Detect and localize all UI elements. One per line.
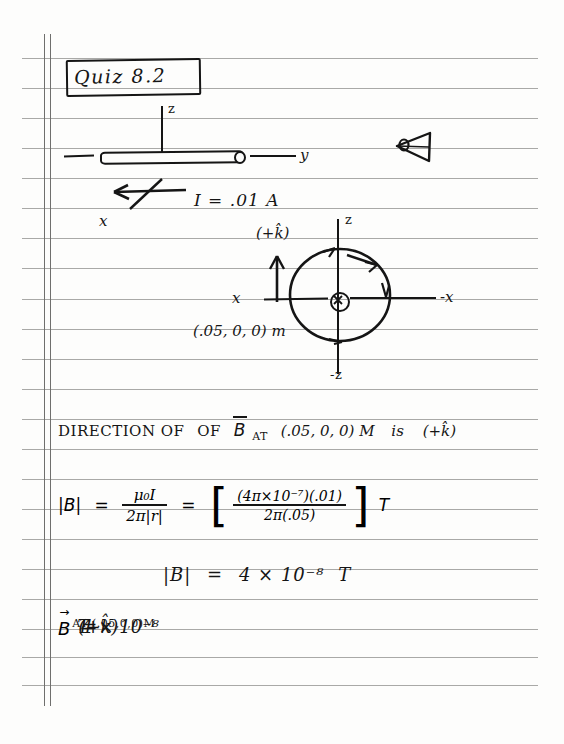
field-magnitude-formula: |B| = μ₀I 2π|r| = [ (4π×10⁻⁷)(.01) 2π(.0…	[58, 478, 389, 532]
cross-inside-circle-icon	[330, 292, 346, 308]
formula-bracket-close: ]	[351, 478, 369, 532]
statement-at: AT	[252, 430, 268, 443]
formula-equals-1: =	[95, 495, 109, 515]
wire-end-cap-icon	[234, 151, 246, 164]
rule-line	[22, 449, 538, 450]
formula-frac2-numerator: (4π×10⁻⁷)(.01)	[233, 488, 346, 504]
formula-fraction-2: (4π×10⁻⁷)(.01) 2π(.05)	[233, 488, 346, 523]
statement-point: (.05, 0, 0) M	[281, 422, 375, 440]
rule-line	[22, 539, 538, 540]
page-title: Quiz 8.2	[74, 66, 167, 87]
k-unit-vector-label: (+k̂)	[256, 226, 289, 241]
z-axis-label: z	[168, 102, 175, 115]
current-value-label: I = .01 A	[194, 192, 279, 209]
statement-prefix: DIRECTION OF	[58, 422, 185, 440]
y-axis-label: y	[300, 148, 308, 163]
rule-line	[22, 148, 538, 149]
rule-line	[22, 657, 538, 658]
result-units: T	[338, 564, 351, 585]
formula-units: T	[379, 495, 389, 515]
magnitude-result: |B| = 4 × 10⁻⁸ T	[163, 566, 351, 584]
final-direction: (+k̂)	[78, 618, 118, 636]
rule-line	[22, 599, 538, 600]
margin-line	[44, 34, 45, 706]
eye-viewpoint-icon	[393, 130, 433, 164]
direction-statement: DIRECTION OF OF B AT (.05, 0, 0) M is (+…	[58, 420, 456, 442]
x-axis-left-segment	[64, 155, 94, 158]
result-value: 4 × 10⁻⁸	[239, 564, 325, 585]
rule-line	[22, 685, 538, 686]
rule-line	[22, 208, 538, 209]
field-neg-x-axis-label: -x	[440, 290, 454, 305]
statement-answer: (+k̂)	[423, 422, 456, 440]
statement-of-word: OF	[197, 422, 221, 440]
z-axis-line	[161, 106, 163, 154]
formula-frac1-numerator: μ₀I	[122, 486, 167, 504]
formula-frac1-denominator: 2π|r|	[122, 504, 167, 525]
formula-fraction-1: μ₀I 2π|r|	[122, 486, 167, 525]
result-equals: =	[207, 564, 223, 585]
formula-equals-2: =	[181, 495, 195, 515]
formula-lhs: |B|	[58, 495, 81, 515]
field-neg-z-axis-label: -z	[330, 368, 342, 381]
rule-line	[22, 118, 538, 119]
rule-line	[22, 389, 538, 390]
rule-line	[22, 359, 538, 360]
current-carrying-wire	[100, 150, 244, 165]
result-lhs: |B|	[163, 564, 191, 585]
notebook-page: Quiz 8.2 z y x I = .01 A z -z x -x	[0, 0, 564, 744]
field-x-axis-label: x	[232, 291, 240, 306]
field-point-label: (.05, 0, 0) m	[193, 324, 286, 339]
formula-bracket-open: [	[210, 478, 228, 532]
k-unit-vector-arrow	[266, 250, 288, 304]
current-direction-arrow	[108, 176, 198, 212]
statement-is: is	[391, 422, 404, 440]
final-vector-answer: B AT (.05,0,0)M = 4 × 10⁻⁸ T (+k̂)	[58, 618, 70, 639]
y-axis-line	[250, 155, 296, 157]
formula-frac2-denominator: 2π(.05)	[233, 504, 346, 523]
field-z-axis-label: z	[345, 213, 352, 226]
margin-line	[50, 34, 51, 706]
x-axis-label: x	[99, 214, 107, 229]
final-vector-b: B	[58, 618, 70, 639]
statement-vector-b: B	[234, 420, 246, 440]
rule-line	[22, 178, 538, 179]
